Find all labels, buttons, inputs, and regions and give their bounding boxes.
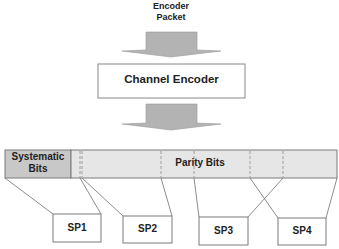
sp3-label: SP3	[199, 225, 248, 236]
sp1-label: SP1	[53, 222, 101, 233]
mapping-lines	[5, 178, 337, 218]
down-arrow-icon	[122, 32, 221, 57]
systematic-label-line1: Systematic	[5, 151, 71, 162]
sp4-label: SP4	[278, 225, 326, 236]
parity-label: Parity Bits	[160, 157, 240, 168]
input-label-line2: Packet	[131, 12, 211, 22]
sp2-label: SP2	[123, 223, 172, 234]
diagram-canvas	[0, 0, 339, 249]
input-label-line1: Encoder	[131, 1, 211, 11]
down-arrow-icon	[122, 104, 221, 130]
systematic-label-line2: Bits	[5, 163, 71, 174]
channel-encoder-label: Channel Encoder	[98, 73, 245, 85]
